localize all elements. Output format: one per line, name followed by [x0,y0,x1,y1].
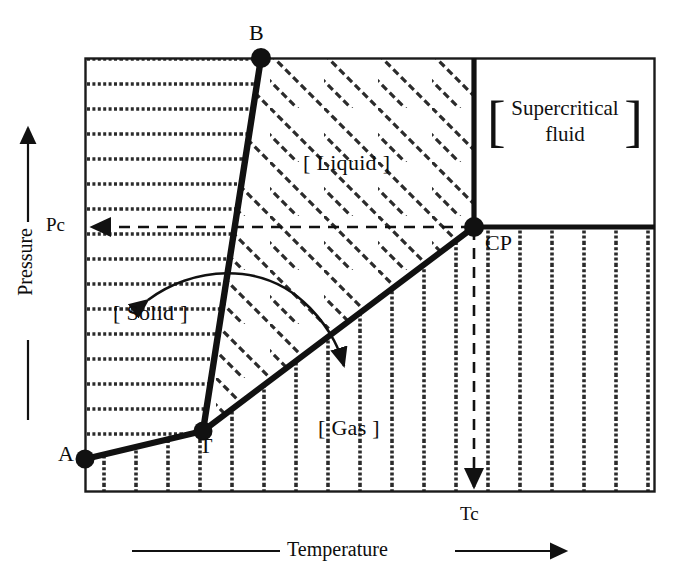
point-b-marker [251,48,271,68]
pc-tick-label: Pc [46,214,65,236]
region-label-solid: [ Solid ] [113,300,188,326]
y-axis-label: Pressure [14,228,44,296]
bracket-close-supercritical: ] [624,99,643,145]
supercritical-line-1: Supercritical [511,96,618,122]
phase-diagram-figure: B A T CP Pc Tc [ Solid ] [ Liquid ] [ Ga… [0,0,674,588]
point-b-label: B [249,20,264,46]
supercritical-text: Supercritical fluid [511,96,618,147]
region-label-gas: [ Gas ] [318,415,380,441]
region-label-liquid: [ Liquid ] [303,150,390,176]
point-cp-marker [464,217,484,237]
point-t-label: T [199,433,212,459]
region-label-supercritical: [ Supercritical fluid ] [487,96,643,147]
supercritical-line-2: fluid [511,122,618,148]
point-a-label: A [58,441,74,467]
tc-tick-label: Tc [460,503,479,525]
bracket-open-supercritical: [ [487,99,506,145]
point-cp-label: CP [485,230,512,256]
phase-diagram-canvas [0,0,674,588]
x-axis-label: Temperature [287,538,388,561]
point-a-marker [76,450,95,469]
